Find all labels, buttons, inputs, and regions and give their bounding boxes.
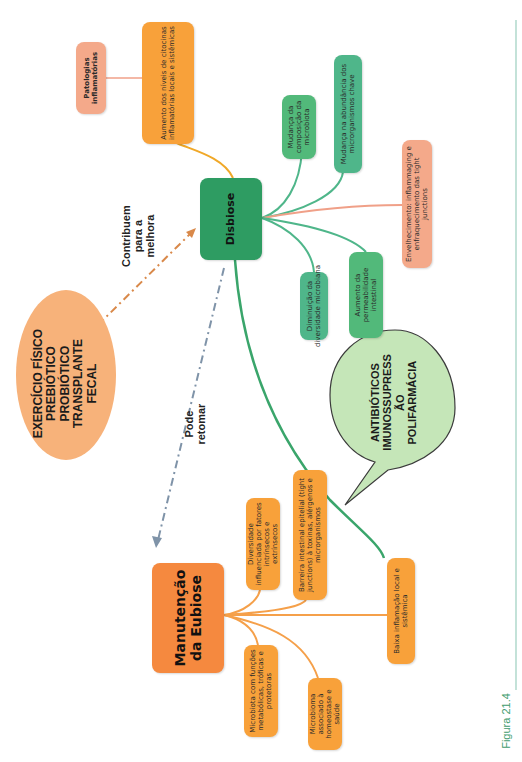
node-eubiose-barreira-text: Barreira intestinal epitelial (tight jun…	[298, 473, 322, 597]
interventions-text: EXERCÍCIO FÍSICO PREBIÓTICO PROBIÓTICO T…	[32, 328, 99, 440]
node-envelhecimento-text: Envelhecimento: inflammaging e enfraquec…	[405, 142, 429, 266]
intervention-transplante: TRANSPLANTE	[73, 328, 86, 440]
node-eubiose-hub: Manutenção da Eubiose	[152, 563, 224, 673]
node-diversidade: Diminuição da diversidade microbiana	[300, 272, 328, 340]
connector-disbiose-envelhecimento	[262, 205, 402, 218]
node-permeabilidade-text: Aumento da permeabilidade intestinal	[354, 260, 378, 330]
node-eubiose-homeostase: Microbioma associado à homeostase e saúd…	[308, 678, 342, 750]
node-diversidade-text: Diminuição da diversidade microbiana	[306, 263, 322, 349]
risk-factors-text: ANTIBIÓTICOS IMUNOSSUPRESS ÃO POLIFARMÁC…	[369, 355, 418, 451]
node-eubiose-baixa-inflamacao-text: Baixa inflamação local e sistêmica	[393, 561, 409, 661]
node-eubiose-barreira: Barreira intestinal epitelial (tight jun…	[293, 470, 327, 600]
arrowhead-pode-retomar	[152, 536, 162, 548]
eubiose-hub-text: Manutenção da Eubiose	[172, 566, 204, 670]
node-patologias-text: Patologias inflamatórias	[83, 45, 99, 111]
figure-caption: Figura 21.4	[500, 693, 512, 749]
risk-antibioticos: ANTIBIÓTICOS	[369, 355, 381, 451]
node-mudanca-abundancia: Mudança na abundância dos microrganismos…	[334, 55, 362, 173]
node-permeabilidade: Aumento da permeabilidade intestinal	[349, 252, 383, 338]
intervention-prebiotico: PREBIÓTICO	[46, 328, 59, 440]
node-citocinas-text: Aumento dos níveis de citocinas inflamat…	[160, 25, 176, 141]
node-eubiose-funcoes-text: Microbiota com funções metabólicas, tróf…	[249, 648, 273, 734]
risk-imunossupressao-b: ÃO	[394, 355, 406, 451]
node-eubiose-funcoes: Microbiota com funções metabólicas, tróf…	[244, 645, 278, 737]
risk-polifarmacia: POLIFARMÁCIA	[406, 355, 418, 451]
disbiose-hub-text: Disbiose	[225, 180, 238, 258]
node-envelhecimento: Envelhecimento: inflammaging e enfraquec…	[402, 140, 432, 268]
node-eubiose-baixa-inflamacao: Baixa inflamação local e sistêmica	[387, 558, 415, 664]
connector-eubiose-diversidade	[224, 590, 260, 615]
node-patologias: Patologias inflamatórias	[76, 42, 106, 114]
arrow-label-pode-retomar: Pode retomar	[183, 389, 207, 459]
intervention-probiotico: PROBIÓTICO	[59, 328, 72, 440]
arrow-label-contribuem: Contribuem para a melhora	[120, 204, 156, 268]
connector-disbiose-permeabilidade	[262, 218, 366, 252]
node-mudanca-composicao-text: Mudança da composição da microbiota	[287, 97, 311, 157]
connector-disbiose-composicao	[262, 150, 302, 218]
node-mudanca-abundancia-text: Mudança na abundância dos microrganismos…	[340, 58, 356, 170]
intervention-fecal: FECAL	[86, 328, 99, 440]
node-disbiose-hub: Disbiose	[200, 178, 262, 260]
node-eubiose-homeostase-text: Microbioma associado à homeostase e saúd…	[309, 681, 341, 747]
node-mudanca-composicao: Mudança da composição da microbiota	[282, 95, 316, 159]
arrowhead-contribuem	[186, 228, 196, 238]
node-eubiose-diversidade: Diversidade influenciada por fatores int…	[246, 498, 280, 590]
node-citocinas: Aumento dos níveis de citocinas inflamat…	[142, 22, 194, 144]
risk-imunossupressao-a: IMUNOSSUPRESS	[382, 355, 394, 451]
node-eubiose-diversidade-text: Diversidade influenciada por fatores int…	[247, 501, 279, 587]
